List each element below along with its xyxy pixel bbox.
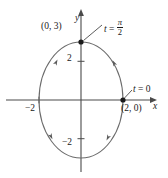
point-label-2-0: (2, 0) (121, 104, 142, 114)
y-axis-label: y (75, 14, 79, 24)
parameter-label-pi-over-2: t = π2 (104, 18, 123, 37)
fraction-denominator: 2 (117, 28, 123, 37)
parameter-label-zero: t = 0 (133, 85, 151, 95)
parametric-ellipse-figure: x y −2 2 −2 (0, 3) (2, 0) t = π2 t = 0 (0, 0, 168, 178)
direction-arrow-lower-right (105, 134, 111, 141)
direction-arrow-upper-left (53, 59, 59, 66)
point-label-0-3: (0, 3) (41, 22, 62, 32)
leader-line-t0 (125, 90, 133, 98)
point-marker-0-3 (78, 39, 83, 44)
y-tick-label-2: 2 (67, 54, 72, 64)
y-axis (78, 9, 84, 172)
x-tick-label-neg2: −2 (25, 104, 35, 114)
y-tick-label-neg2: −2 (62, 138, 72, 148)
x-axis-label: x (153, 102, 157, 112)
parameter-equals-sign: = (136, 84, 146, 94)
parameter-equals-sign: = (107, 24, 117, 34)
parameter-value: 0 (146, 84, 151, 94)
fraction-pi-over-2: π2 (117, 18, 123, 37)
leader-line-pi-2 (84, 25, 103, 41)
